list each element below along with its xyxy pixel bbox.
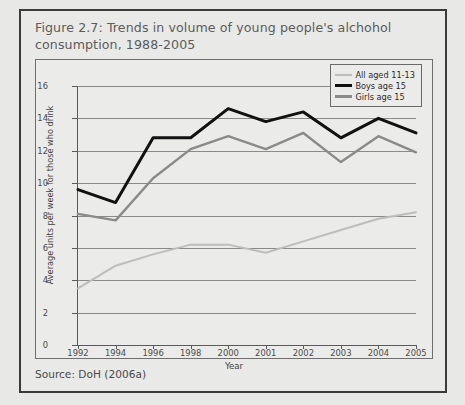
- x-tick-label: 1994: [96, 348, 136, 358]
- series-line: [78, 109, 416, 203]
- legend-swatch: [335, 84, 352, 87]
- x-tick-label: 1996: [133, 348, 173, 358]
- chart-legend: All aged 11-13Boys age 15Girls age 15: [330, 64, 422, 107]
- y-tick-label: 16: [8, 81, 48, 91]
- x-tick-label: 2003: [321, 348, 361, 358]
- x-tick-label: 2002: [283, 348, 323, 358]
- y-tick-label: 14: [8, 113, 48, 123]
- y-tick-mark: [72, 151, 77, 152]
- legend-label: Girls age 15: [355, 92, 404, 102]
- y-tick-label: 6: [8, 243, 48, 253]
- y-tick-label: 8: [8, 211, 48, 221]
- y-tick-mark: [72, 118, 77, 119]
- x-tick-label: 2004: [358, 348, 398, 358]
- series-line: [78, 212, 416, 288]
- y-tick-label: 0: [8, 340, 48, 350]
- y-tick-mark: [72, 86, 77, 87]
- y-tick-label: 2: [8, 308, 48, 318]
- y-tick-label: 12: [8, 146, 48, 156]
- legend-swatch: [335, 95, 352, 97]
- y-tick-mark: [72, 248, 77, 249]
- figure-frame: Figure 2.7: Trends in volume of young pe…: [19, 9, 447, 393]
- y-tick-mark: [72, 345, 77, 346]
- chart-plot-panel: 0246810121416 19921994199619982000200120…: [35, 59, 433, 359]
- y-tick-label: 10: [8, 178, 48, 188]
- x-tick-label: 1998: [171, 348, 211, 358]
- x-axis-line: [77, 345, 416, 346]
- x-tick-label: 2005: [396, 348, 436, 358]
- y-axis-title: Average units per week for those who dri…: [45, 85, 55, 305]
- series-line: [78, 133, 416, 220]
- legend-item: Girls age 15: [335, 91, 415, 102]
- y-tick-label: 4: [8, 275, 48, 285]
- source-note: Source: DoH (2006a): [35, 368, 146, 380]
- y-tick-mark: [72, 313, 77, 314]
- legend-item: Boys age 15: [335, 80, 415, 91]
- y-tick-mark: [72, 183, 77, 184]
- legend-label: Boys age 15: [355, 81, 406, 91]
- figure-title: Figure 2.7: Trends in volume of young pe…: [35, 20, 405, 53]
- legend-label: All aged 11-13: [355, 70, 415, 80]
- legend-item: All aged 11-13: [335, 69, 415, 80]
- x-tick-label: 2000: [208, 348, 248, 358]
- x-tick-label: 1992: [58, 348, 98, 358]
- legend-swatch: [335, 74, 352, 76]
- y-tick-mark: [72, 280, 77, 281]
- y-tick-mark: [72, 216, 77, 217]
- x-tick-label: 2001: [246, 348, 286, 358]
- series-lines: [78, 86, 416, 345]
